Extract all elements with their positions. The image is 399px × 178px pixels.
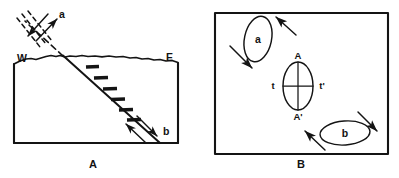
panel-b-ellipse-a-label: a [255, 33, 261, 45]
panel-b-arrow-lower-right [358, 112, 377, 131]
panel-b-axis-top-label: A [295, 50, 302, 61]
panel-b-axis-left-label: t [271, 80, 275, 91]
panel-a-couple-label: a [59, 8, 65, 20]
panel-a-slip-label: b [163, 125, 169, 137]
panel-b-axis-bottom-label: A' [293, 111, 302, 122]
panel-b-frame [215, 13, 388, 154]
panel-a-topography-line [14, 56, 178, 65]
panel-a-hatch-mark [86, 67, 99, 68]
panel-b-arrow-upper-left [230, 46, 252, 68]
panel-b-arrow-lower-left [305, 131, 325, 150]
geology-figure-svg: a b W E A a b [0, 0, 399, 178]
panel-a-hatch-mark [127, 120, 141, 121]
figure-root: a b W E A a b [0, 0, 399, 178]
panel-b-ellipse-b-label: b [342, 127, 348, 139]
panel-b-group: a b A A' t t' B [215, 13, 388, 170]
panel-a-hatch-mark [111, 99, 125, 100]
panel-b-axis-right-label: t' [319, 80, 324, 91]
panel-a-couple-arrow-up [36, 19, 57, 41]
panel-a-group: a b W E A [14, 8, 178, 170]
panel-a-east-label: E [166, 51, 173, 63]
panel-b-caption: B [297, 158, 305, 170]
panel-a-hatch-mark [94, 78, 108, 79]
panel-a-west-label: W [17, 52, 27, 64]
panel-a-caption: A [89, 158, 97, 170]
panel-a-fault-projection-dashed [25, 21, 63, 56]
panel-a-hatch-mark [103, 89, 117, 90]
panel-a-hatch-mark [119, 110, 133, 111]
panel-b-arrow-upper-right [276, 17, 296, 35]
